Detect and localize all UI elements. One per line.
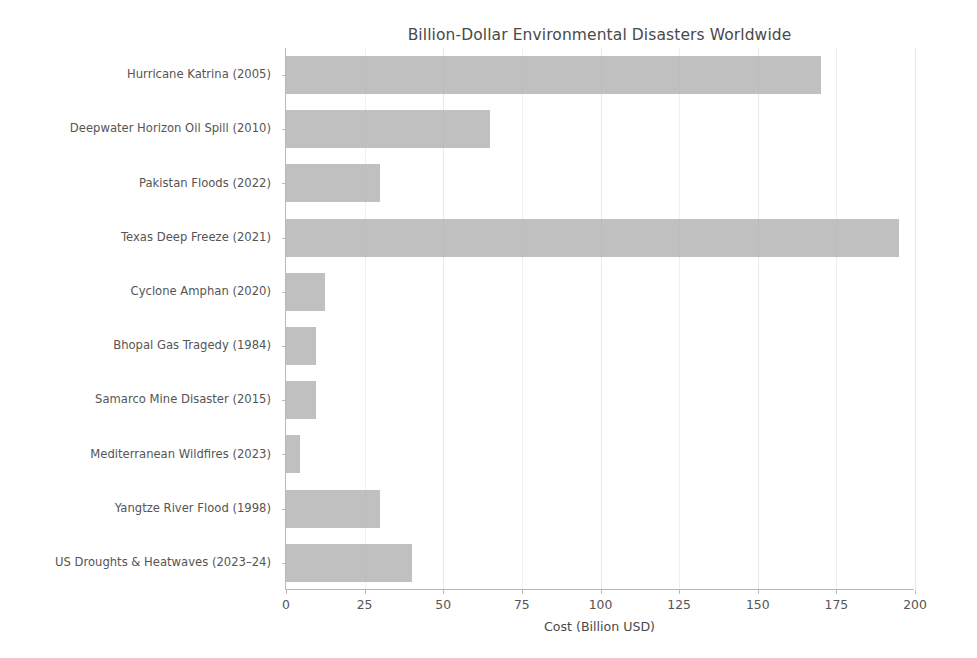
y-axis-tick-label: Yangtze River Flood (1998) <box>115 503 271 515</box>
bar-row[interactable] <box>286 319 914 373</box>
y-axis-tick-label: Cyclone Amphan (2020) <box>131 286 271 298</box>
chart-figure: Billion-Dollar Environmental Disasters W… <box>0 0 977 658</box>
bar[interactable] <box>286 219 899 257</box>
bar[interactable] <box>286 110 490 148</box>
y-axis-tick-label: Pakistan Floods (2022) <box>139 178 271 190</box>
bar-row[interactable] <box>286 373 914 427</box>
x-tick-mark <box>365 590 366 594</box>
y-tick-mark <box>282 400 286 401</box>
bar-row[interactable] <box>286 211 914 265</box>
bar-row[interactable] <box>286 102 914 156</box>
y-axis-tick-label: Texas Deep Freeze (2021) <box>121 232 271 244</box>
y-tick-mark <box>282 238 286 239</box>
bar-row[interactable] <box>286 48 914 102</box>
y-tick-mark <box>282 563 286 564</box>
bar[interactable] <box>286 273 325 311</box>
y-tick-mark <box>282 509 286 510</box>
y-tick-mark <box>282 129 286 130</box>
y-axis-tick-label: US Droughts & Heatwaves (2023–24) <box>55 557 271 569</box>
bar[interactable] <box>286 327 316 365</box>
bar[interactable] <box>286 544 412 582</box>
bar-row[interactable] <box>286 536 914 590</box>
y-axis-tick-label: Samarco Mine Disaster (2015) <box>95 395 271 407</box>
y-axis-tick-label: Deepwater Horizon Oil Spill (2010) <box>70 124 271 136</box>
bar[interactable] <box>286 490 380 528</box>
x-tick-mark <box>836 590 837 594</box>
bar[interactable] <box>286 164 380 202</box>
x-axis-tick-label: 100 <box>589 597 613 612</box>
bar[interactable] <box>286 381 316 419</box>
plot-area: 0255075100125150175200 <box>285 48 914 590</box>
bar-row[interactable] <box>286 482 914 536</box>
bar[interactable] <box>286 435 300 473</box>
bar-row[interactable] <box>286 265 914 319</box>
y-axis-tick-label: Hurricane Katrina (2005) <box>127 69 271 81</box>
bar-row[interactable] <box>286 156 914 210</box>
x-axis-tick-label: 0 <box>282 597 290 612</box>
x-axis-tick-label: 200 <box>903 597 927 612</box>
y-tick-mark <box>282 75 286 76</box>
y-tick-mark <box>282 292 286 293</box>
x-axis-tick-label: 25 <box>357 597 373 612</box>
x-tick-mark <box>679 590 680 594</box>
y-axis-tick-label: Mediterranean Wildfires (2023) <box>90 449 271 461</box>
x-axis-tick-label: 125 <box>667 597 691 612</box>
y-axis-tick-label: Bhopal Gas Tragedy (1984) <box>113 340 271 352</box>
chart-title: Billion-Dollar Environmental Disasters W… <box>285 26 914 44</box>
y-tick-mark <box>282 346 286 347</box>
x-tick-mark <box>522 590 523 594</box>
x-tick-mark <box>443 590 444 594</box>
y-axis-label-group: Hurricane Katrina (2005)Deepwater Horizo… <box>0 48 279 590</box>
x-axis-tick-label: 50 <box>435 597 451 612</box>
bar[interactable] <box>286 56 821 94</box>
x-tick-mark <box>601 590 602 594</box>
y-tick-mark <box>282 454 286 455</box>
x-axis-tick-label: 75 <box>514 597 530 612</box>
x-axis-tick-label: 175 <box>825 597 849 612</box>
x-tick-mark <box>286 590 287 594</box>
x-axis-tick-label: 150 <box>746 597 770 612</box>
x-axis-title: Cost (Billion USD) <box>285 619 914 634</box>
bar-row[interactable] <box>286 427 914 481</box>
x-tick-mark <box>758 590 759 594</box>
x-tick-mark <box>915 590 916 594</box>
y-tick-mark <box>282 183 286 184</box>
grid-line <box>915 48 916 589</box>
